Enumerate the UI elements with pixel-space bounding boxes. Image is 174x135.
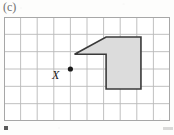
- figure-c-container: (c) X: [0, 0, 174, 135]
- grid-svg: X: [4, 17, 170, 121]
- coordinate-grid: X: [4, 17, 170, 121]
- bottom-right-speck: [163, 127, 173, 130]
- part-label: (c): [3, 0, 16, 15]
- point-x-dot: [68, 66, 73, 71]
- point-x-label: X: [51, 68, 60, 82]
- bottom-left-speck: [4, 126, 8, 130]
